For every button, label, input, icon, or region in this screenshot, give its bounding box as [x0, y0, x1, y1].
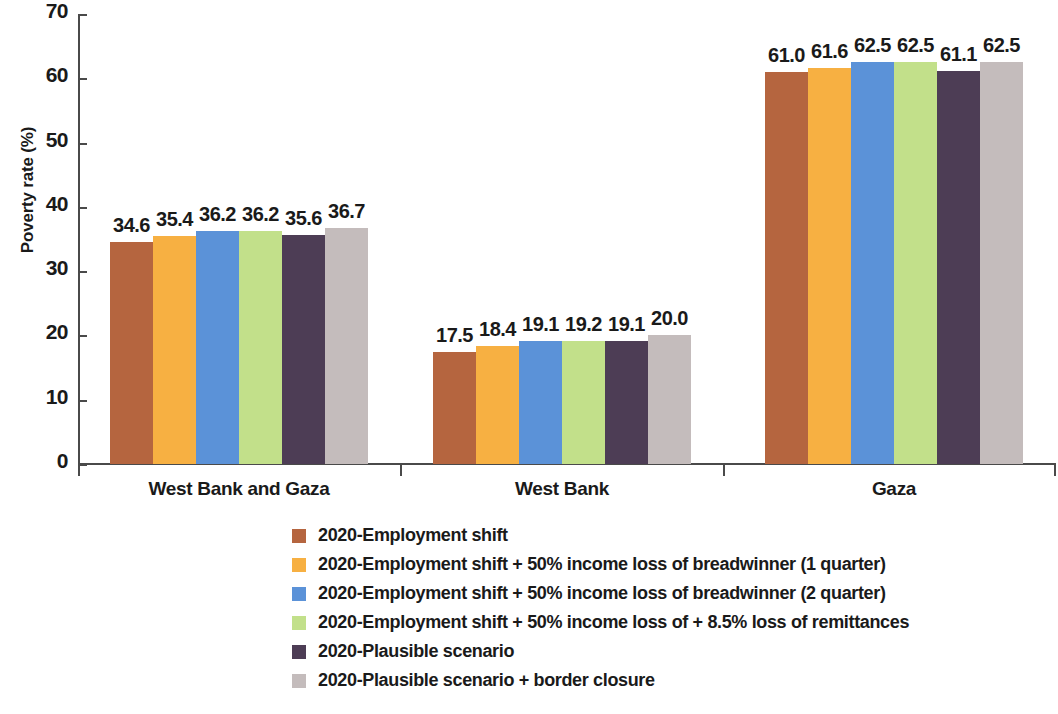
bar-chart: Poverty rate (%) 706050403020100 34.635.…: [0, 0, 1058, 714]
legend-item-label: 2020-Employment shift + 50% income loss …: [318, 612, 909, 633]
bar: 62.5: [851, 62, 894, 464]
bar-group: 61.061.662.562.561.162.5: [765, 14, 1023, 464]
legend-color-swatch: [292, 587, 306, 601]
legend-item[interactable]: 2020-Employment shift + 50% income loss …: [292, 608, 909, 637]
y-axis-tick-label: 30: [8, 256, 68, 280]
bar-value-label: 20.0: [651, 307, 688, 330]
bar-value-label: 61.0: [768, 44, 805, 67]
legend-item[interactable]: 2020-Plausible scenario: [292, 637, 909, 666]
bar-value-label: 19.1: [608, 313, 645, 336]
legend-color-swatch: [292, 645, 306, 659]
bar: 19.2: [562, 341, 605, 464]
bar-value-label: 35.4: [156, 208, 193, 231]
bar-value-label: 34.6: [113, 214, 150, 237]
y-axis-tick-label: 60: [8, 63, 68, 87]
bar-group: 34.635.436.236.235.636.7: [110, 14, 368, 464]
bar-value-label: 61.6: [811, 40, 848, 63]
x-axis-category-label: West Bank and Gaza: [89, 478, 389, 500]
bar: 34.6: [110, 242, 153, 464]
bar-value-label: 62.5: [854, 34, 891, 57]
bar-value-label: 36.2: [242, 203, 279, 226]
bar: 61.1: [937, 71, 980, 464]
x-axis-category-label: West Bank: [412, 478, 712, 500]
y-axis-tick-label: 70: [8, 0, 68, 23]
bar: 17.5: [433, 352, 476, 465]
bar: 19.1: [519, 341, 562, 464]
x-axis-separator-tick: [400, 465, 402, 476]
bar-value-label: 36.7: [328, 200, 365, 223]
bar: 36.2: [239, 231, 282, 464]
bar: 61.0: [765, 72, 808, 464]
legend-color-swatch: [292, 674, 306, 688]
bar: 62.5: [894, 62, 937, 464]
legend-color-swatch: [292, 616, 306, 630]
bar-value-label: 62.5: [983, 34, 1020, 57]
bar-value-label: 61.1: [940, 43, 977, 66]
bar-value-label: 19.2: [565, 313, 602, 336]
legend-item-label: 2020-Employment shift + 50% income loss …: [318, 583, 886, 604]
legend-item-label: 2020-Plausible scenario + border closure: [318, 670, 655, 691]
bar-value-label: 62.5: [897, 34, 934, 57]
legend-item[interactable]: 2020-Plausible scenario + border closure: [292, 666, 909, 695]
x-axis-end-tick: [1054, 465, 1056, 476]
plot-area: 34.635.436.236.235.636.717.518.419.119.2…: [78, 14, 1056, 464]
legend-item[interactable]: 2020-Employment shift: [292, 521, 909, 550]
legend-color-swatch: [292, 529, 306, 543]
bar: 62.5: [980, 62, 1023, 464]
bar-value-label: 19.1: [522, 313, 559, 336]
x-axis-category-label: Gaza: [744, 478, 1044, 500]
bar: 19.1: [605, 341, 648, 464]
bar: 20.0: [648, 335, 691, 464]
chart-legend: 2020-Employment shift2020-Employment shi…: [292, 521, 909, 695]
y-axis-tick-label: 20: [8, 320, 68, 344]
bar: 61.6: [808, 68, 851, 464]
y-axis-tick-label: 0: [8, 449, 68, 473]
bar-group: 17.518.419.119.219.120.0: [433, 14, 691, 464]
bar-value-label: 17.5: [436, 324, 473, 347]
legend-color-swatch: [292, 558, 306, 572]
bar: 18.4: [476, 346, 519, 464]
bar-value-label: 36.2: [199, 203, 236, 226]
legend-item-label: 2020-Employment shift: [318, 525, 508, 546]
legend-item-label: 2020-Employment shift + 50% income loss …: [318, 554, 886, 575]
y-axis-tick-label: 50: [8, 128, 68, 152]
bar-value-label: 18.4: [479, 318, 516, 341]
bar: 36.2: [196, 231, 239, 464]
y-axis-tick-label: 40: [8, 192, 68, 216]
x-axis-end-tick: [78, 465, 80, 476]
legend-item[interactable]: 2020-Employment shift + 50% income loss …: [292, 579, 909, 608]
legend-item-label: 2020-Plausible scenario: [318, 641, 514, 662]
bar: 36.7: [325, 228, 368, 464]
bar-value-label: 35.6: [285, 207, 322, 230]
bar: 35.6: [282, 235, 325, 464]
x-axis-separator-tick: [723, 465, 725, 476]
legend-item[interactable]: 2020-Employment shift + 50% income loss …: [292, 550, 909, 579]
y-axis-tick-label: 10: [8, 385, 68, 409]
bar: 35.4: [153, 236, 196, 464]
